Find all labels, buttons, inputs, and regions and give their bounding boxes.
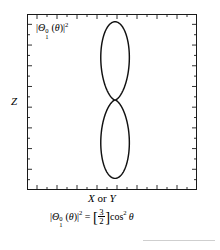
fraction-denominator: 2	[98, 216, 104, 226]
fraction-numerator: 3	[98, 208, 104, 217]
eq-theta-symbol: Θ	[52, 211, 59, 222]
eq-theta-subscript: 1	[59, 222, 62, 229]
or-connector: or	[95, 192, 110, 204]
orbital-angular-function-figure: |Θ01(θ)|2 Z X or Y |Θ01(θ)|2 = [32]cos2 …	[0, 0, 220, 250]
equation-caption: |Θ01(θ)|2 = [32]cos2 θ	[50, 208, 134, 227]
eq-cos: cos	[110, 211, 123, 222]
square-exponent: 2	[65, 21, 68, 28]
eq-fraction-three-halves: 32	[98, 208, 104, 227]
polar-curve-cos-squared	[101, 22, 130, 179]
y-axis-letter: Y	[109, 192, 115, 204]
axis-label-z: Z	[11, 96, 17, 107]
curve-label: |Θ01(θ)|2	[36, 23, 68, 33]
eq-bracket-close: ]	[105, 210, 110, 225]
theta-symbol: Θ	[38, 22, 45, 33]
bottom-divider-rule	[143, 240, 215, 241]
eq-bracket-open: [	[93, 210, 98, 225]
theta-subscript: 1	[45, 34, 48, 41]
axis-label-x-or-y: X or Y	[88, 193, 116, 204]
x-axis-letter: X	[88, 192, 95, 204]
eq-equals: =	[82, 211, 93, 222]
eq-theta-trailing: θ	[127, 211, 134, 222]
